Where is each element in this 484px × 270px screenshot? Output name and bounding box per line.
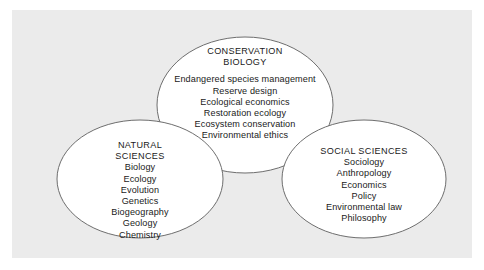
group-item: Geology	[57, 218, 223, 229]
group-item: Chemistry	[57, 230, 223, 241]
group-title-line: NATURAL	[57, 140, 223, 151]
group-item: Sociology	[282, 157, 446, 168]
group-item: Environmental law	[282, 202, 446, 213]
diagram-page: CONSERVATION BIOLOGY Endangered species …	[0, 0, 484, 270]
group-title-line: BIOLOGY	[157, 57, 333, 68]
group-item: Policy	[282, 191, 446, 202]
group-item: Ecosystem conservation	[157, 119, 333, 130]
group-item: Restoration ecology	[157, 108, 333, 119]
label-social-sciences: SOCIAL SCIENCES Sociology Anthropology E…	[282, 146, 446, 224]
group-item: Economics	[282, 180, 446, 191]
group-title-line: SOCIAL SCIENCES	[282, 146, 446, 157]
group-title-line: CONSERVATION	[157, 46, 333, 57]
label-natural-sciences: NATURAL SCIENCES Biology Ecology Evoluti…	[57, 140, 223, 241]
label-conservation-biology: CONSERVATION BIOLOGY Endangered species …	[157, 46, 333, 142]
group-item: Ecology	[57, 174, 223, 185]
group-item: Evolution	[57, 185, 223, 196]
group-item: Genetics	[57, 196, 223, 207]
group-item: Anthropology	[282, 168, 446, 179]
group-item: Ecological economics	[157, 97, 333, 108]
group-title-line: SCIENCES	[57, 151, 223, 162]
group-item: Endangered species management	[157, 74, 333, 85]
group-item: Biology	[57, 162, 223, 173]
group-item: Reserve design	[157, 86, 333, 97]
group-item: Biogeography	[57, 207, 223, 218]
group-item: Philosophy	[282, 213, 446, 224]
